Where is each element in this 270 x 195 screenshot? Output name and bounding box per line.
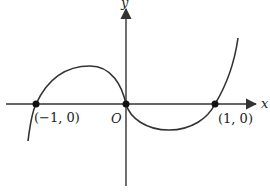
cubic-graph [0, 0, 270, 195]
point-1-0 [212, 101, 219, 108]
point-origin [123, 101, 130, 108]
x-axis-label: x [261, 97, 268, 110]
y-axis-label: y [121, 0, 128, 9]
point-left-label: (−1, 0) [34, 111, 80, 124]
cubic-curve [28, 38, 238, 141]
origin-label: O [111, 112, 122, 125]
point-neg1-0 [33, 101, 40, 108]
point-right-label: (1, 0) [218, 112, 253, 125]
